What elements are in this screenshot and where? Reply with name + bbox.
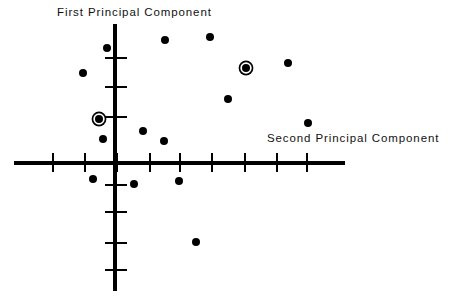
y-axis-title: First Principal Component [57,6,212,19]
data-point [175,177,183,185]
data-point [304,119,312,127]
x-axis-tick [211,153,214,172]
y-axis-tick [105,242,127,245]
scatter-plot-figure: First Principal Component Second Princip… [0,0,468,306]
data-point [161,36,169,44]
x-axis-tick [52,153,55,172]
data-point [139,127,147,135]
data-point [284,59,292,67]
x-axis-title: Second Principal Component [267,132,439,145]
x-axis-tick [179,153,182,172]
x-axis-tick [116,153,119,172]
x-axis-tick [276,153,279,172]
x-axis-tick [84,153,87,172]
x-axis-tick [244,153,247,172]
data-point [130,180,138,188]
data-point-highlighted [95,115,103,123]
data-point [103,44,111,52]
data-point [192,238,200,246]
y-axis-tick [105,269,127,272]
data-point [160,137,168,145]
y-axis-tick [105,86,127,89]
data-point [206,33,214,41]
data-point [79,69,87,77]
y-axis-tick [105,116,127,119]
data-point [89,175,97,183]
x-axis-tick [306,153,309,172]
x-axis-tick [149,153,152,172]
data-point [224,95,232,103]
data-point-highlighted [242,64,250,72]
y-axis-tick [105,211,127,214]
y-axis-tick [105,57,127,60]
y-axis-tick [105,184,127,187]
data-point [99,135,107,143]
